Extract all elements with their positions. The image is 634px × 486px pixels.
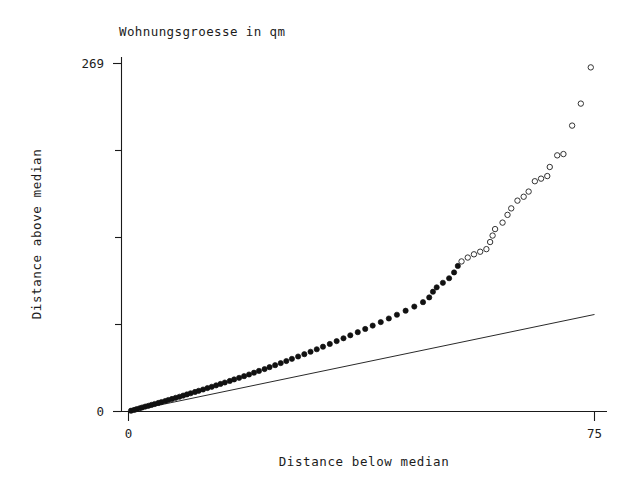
data-point	[484, 246, 489, 251]
data-point	[327, 341, 332, 346]
identity-reference-line	[129, 314, 595, 411]
data-point	[487, 239, 492, 244]
data-point	[314, 347, 319, 352]
data-point	[222, 380, 227, 385]
data-point	[471, 252, 476, 257]
data-point	[505, 212, 510, 217]
data-point	[532, 179, 537, 184]
data-point	[569, 123, 574, 128]
data-point	[477, 249, 482, 254]
data-point	[320, 344, 325, 349]
data-point	[455, 263, 460, 268]
data-point	[509, 206, 514, 211]
x-tick-label-max: 75	[587, 426, 602, 441]
y-axis-title: Distance above median	[29, 149, 44, 320]
x-axis-ticks	[129, 412, 595, 422]
data-point	[515, 198, 520, 203]
data-point	[451, 270, 456, 275]
data-point	[427, 295, 432, 300]
chart-title: Wohnungsgroesse in qm	[119, 24, 285, 39]
data-point	[555, 153, 560, 158]
data-point	[459, 259, 464, 264]
data-point	[237, 375, 242, 380]
data-point	[500, 220, 505, 225]
qq-scatter-plot: Wohnungsgroesse in qm 269 0 0 75 Distanc…	[0, 0, 634, 486]
data-point	[394, 312, 399, 317]
data-point	[256, 368, 261, 373]
data-point	[262, 366, 267, 371]
data-point	[465, 255, 470, 260]
x-axis-title: Distance below median	[279, 454, 450, 469]
data-point	[447, 276, 452, 281]
data-point	[308, 349, 313, 354]
chart-container: Wohnungsgroesse in qm 269 0 0 75 Distanc…	[0, 0, 634, 486]
data-point	[302, 352, 307, 357]
data-point	[430, 289, 435, 294]
data-point	[403, 308, 408, 313]
data-point	[251, 370, 256, 375]
x-tick-label-min: 0	[125, 426, 133, 441]
data-point	[526, 189, 531, 194]
data-point	[296, 354, 301, 359]
data-point	[578, 101, 583, 106]
data-point	[241, 374, 246, 379]
data-point	[440, 280, 445, 285]
y-axis-ticks	[113, 64, 122, 412]
data-points-group	[128, 65, 593, 414]
data-point	[561, 151, 566, 156]
data-point	[378, 320, 383, 325]
data-point	[420, 300, 425, 305]
data-point	[355, 330, 360, 335]
y-tick-label-min: 0	[96, 404, 104, 419]
data-point	[289, 356, 294, 361]
data-point	[348, 333, 353, 338]
data-point	[363, 326, 368, 331]
data-point	[284, 358, 289, 363]
data-point	[370, 323, 375, 328]
data-point	[278, 361, 283, 366]
data-point	[334, 339, 339, 344]
data-point	[490, 233, 495, 238]
data-point	[386, 316, 391, 321]
axes-group	[121, 57, 607, 412]
data-point	[246, 372, 251, 377]
data-point	[267, 365, 272, 370]
data-point	[521, 194, 526, 199]
data-point	[273, 363, 278, 368]
data-point	[341, 336, 346, 341]
data-point	[545, 173, 550, 178]
y-tick-label-max: 269	[81, 56, 104, 71]
data-point	[434, 285, 439, 290]
data-point	[412, 304, 417, 309]
data-point	[547, 164, 552, 169]
data-point	[492, 226, 497, 231]
data-point	[232, 377, 237, 382]
data-point	[588, 65, 593, 70]
data-point	[538, 176, 543, 181]
